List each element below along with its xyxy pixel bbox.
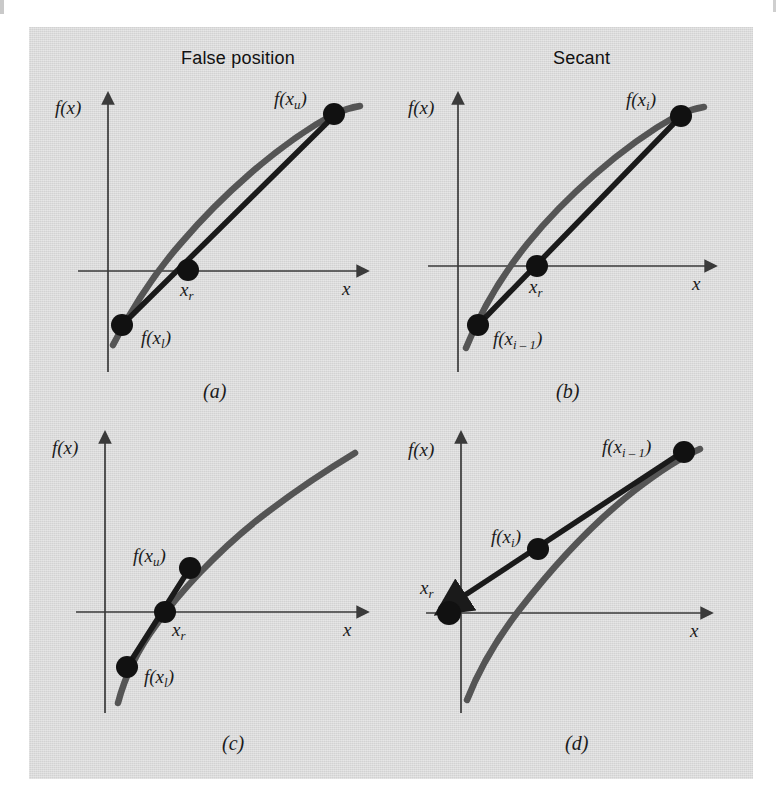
panel-d-caption: (d)	[565, 733, 588, 753]
panel-a-y-axis-label: f(x)	[55, 98, 81, 117]
panel-c-label-upper-point: f(xu)	[133, 546, 166, 569]
panel-d-label-upper-point-close: )	[645, 436, 651, 457]
panel-d-x-axis-label: x	[690, 621, 698, 640]
figure-vector-layer	[0, 0, 777, 807]
panel-b-y-axis-label: f(x)	[408, 98, 434, 117]
panel-d	[426, 441, 702, 713]
panel-d-function-curve	[467, 449, 700, 700]
panel-a-title: False position	[181, 48, 295, 69]
panel-c-caption: (c)	[222, 733, 244, 753]
panel-b-label-root: xr	[529, 277, 542, 300]
panel-d-point-root	[437, 601, 461, 625]
panel-d-label-middle-point-base: f(x	[491, 526, 511, 547]
panel-b-secant-line	[478, 114, 683, 325]
panel-d-point-middle	[527, 538, 549, 560]
panel-d-label-middle-point: f(xi)	[491, 527, 521, 550]
panel-c-label-lower-point: f(xl)	[144, 667, 174, 690]
panel-b-x-axis-label: x	[692, 274, 700, 293]
panel-d-label-upper-point-sub: i – 1	[622, 445, 645, 460]
panel-a-x-axis-label: x	[342, 279, 350, 298]
panel-a-label-upper-point: f(xu)	[274, 89, 307, 112]
panel-b-label-root-sub: r	[537, 285, 542, 300]
panel-d-label-root-sub: r	[428, 586, 433, 601]
panel-d-label-upper-point: f(xi – 1)	[602, 437, 651, 460]
panel-a-label-lower-point: f(xl)	[141, 328, 171, 351]
panel-d-y-axis-label: f(x)	[408, 440, 434, 459]
panel-d-label-middle-point-close: )	[515, 526, 521, 547]
panel-c-x-axis-label: x	[343, 620, 351, 639]
panel-d-point-upper	[673, 441, 695, 463]
panel-a-label-upper-point-close: )	[301, 88, 307, 109]
panel-a-caption: (a)	[203, 381, 226, 401]
panel-b-point-lower	[467, 314, 489, 336]
panel-c	[76, 442, 358, 713]
panel-b-label-upper-point-base: f(x	[626, 89, 646, 110]
panel-a-label-root-sub: r	[188, 288, 193, 303]
figure-root: False position f(x) x f(xu) f(xl) xr (a)…	[0, 0, 777, 807]
panel-b-label-upper-point: f(xi)	[626, 90, 656, 113]
panel-c-label-root-sub: r	[180, 628, 185, 643]
panel-a-point-upper	[323, 103, 345, 125]
panel-b-caption: (b)	[556, 381, 579, 401]
panel-b-point-root	[526, 255, 548, 277]
panel-b-label-lower-point: f(xi – 1)	[493, 329, 542, 352]
panel-b-function-curve	[466, 107, 704, 348]
panel-d-label-root: xr	[420, 578, 433, 601]
panel-b-label-upper-point-close: )	[650, 89, 656, 110]
panel-b-title: Secant	[553, 48, 610, 69]
panel-b-label-lower-point-base: f(x	[493, 328, 513, 349]
panel-a-label-upper-point-base: f(x	[274, 88, 294, 109]
panel-a	[78, 103, 360, 372]
panel-b-point-upper	[670, 105, 692, 127]
panel-d-secant-arrow	[459, 449, 687, 599]
panel-b	[428, 103, 706, 372]
panel-b-label-lower-point-sub: i – 1	[513, 337, 536, 352]
panel-c-label-upper-point-base: f(x	[133, 545, 153, 566]
panel-a-label-root: xr	[180, 280, 193, 303]
panel-a-label-lower-point-close: )	[165, 327, 171, 348]
panel-c-label-lower-point-base: f(x	[144, 666, 164, 687]
panel-c-label-root: xr	[172, 620, 185, 643]
panel-b-label-lower-point-close: )	[536, 328, 542, 349]
panel-a-point-lower	[111, 314, 133, 336]
panel-a-label-lower-point-base: f(x	[141, 327, 161, 348]
panel-a-function-curve	[113, 106, 360, 345]
panel-a-point-root	[177, 259, 199, 281]
panel-c-point-lower	[116, 656, 138, 678]
panel-c-point-upper	[179, 557, 201, 579]
panel-c-label-lower-point-close: )	[168, 666, 174, 687]
panel-d-label-upper-point-base: f(x	[602, 436, 622, 457]
panel-c-label-upper-point-close: )	[160, 545, 166, 566]
panel-a-chord-line	[122, 113, 337, 325]
panel-c-y-axis-label: f(x)	[52, 438, 78, 457]
